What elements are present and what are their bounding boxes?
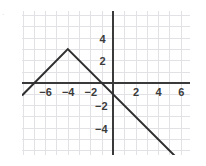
x-tick-label-6: 6 [178,86,184,98]
x-tick-label-neg2: −2 [85,86,98,98]
y-tick-label-neg4: −4 [95,123,108,135]
y-tick-label-2: 2 [99,55,105,67]
x-tick-label-neg4: −4 [62,86,75,98]
x-tick-label-2: 2 [133,86,139,98]
y-tick-label-4: 4 [99,33,106,45]
x-tick-label-4: 4 [156,86,163,98]
x-tick-label-neg6: −6 [39,86,52,98]
graph-figure: · [0,0,206,166]
y-tick-label-neg2: −2 [95,100,108,112]
coordinate-plane: −6 −4 −2 2 4 6 4 2 −2 −4 [0,0,206,166]
